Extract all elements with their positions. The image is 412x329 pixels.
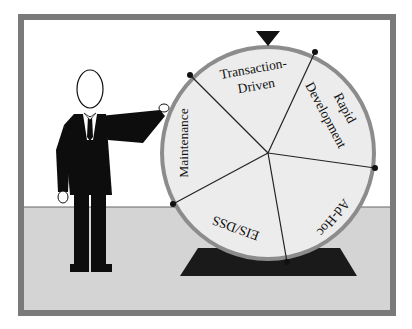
left-leg [74,193,89,265]
left-shoe [70,264,89,272]
right-shoe [91,264,112,272]
wheel-of-fortune-illustration: Transaction- Driven Rapid Development Ad… [0,0,412,329]
segment-label: Maintenance [176,108,191,178]
segment-maintenance: Maintenance [176,108,191,178]
left-hand [58,191,68,203]
head [77,70,103,108]
right-hand [159,104,169,112]
right-leg [91,193,106,265]
